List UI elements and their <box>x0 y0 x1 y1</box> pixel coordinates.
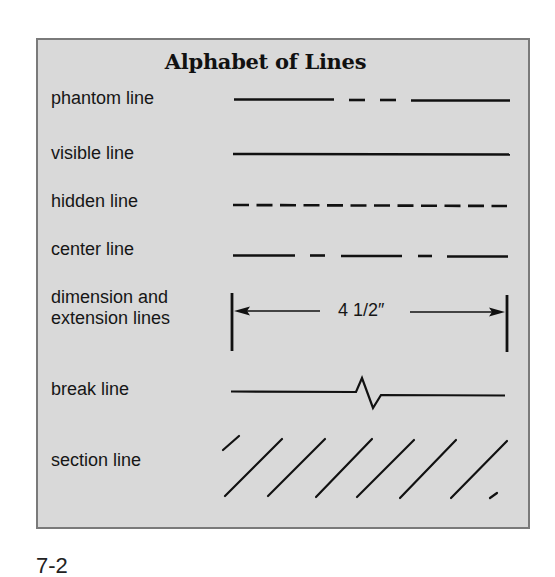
figure-caption: 7-2 <box>36 553 68 577</box>
hidden-line-sample <box>233 205 507 206</box>
center-line-sample <box>233 256 508 257</box>
break-line-sample <box>231 378 505 408</box>
dimension-value: 4 1/2″ <box>332 300 390 321</box>
section-line-sample <box>223 436 507 498</box>
visible-line-sample <box>233 154 510 155</box>
phantom-line-sample <box>234 100 510 101</box>
